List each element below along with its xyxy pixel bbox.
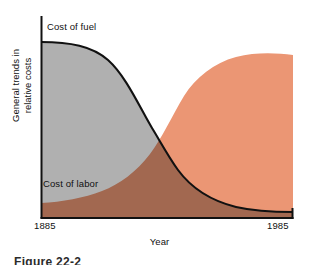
annotation-cost-of-fuel: Cost of fuel — [47, 21, 96, 32]
x-axis-label: Year — [0, 236, 319, 247]
y-axis-label: General trends in relative costs — [10, 44, 33, 128]
x-axis-tick-start: 1885 — [34, 220, 56, 231]
annotation-cost-of-labor: Cost of labor — [43, 178, 98, 189]
figure-caption: Figure 22-2 — [14, 255, 134, 265]
x-axis-tick-end: 1985 — [267, 220, 289, 231]
figure-container: Cost of fuel Cost of labor General trend… — [0, 0, 319, 265]
